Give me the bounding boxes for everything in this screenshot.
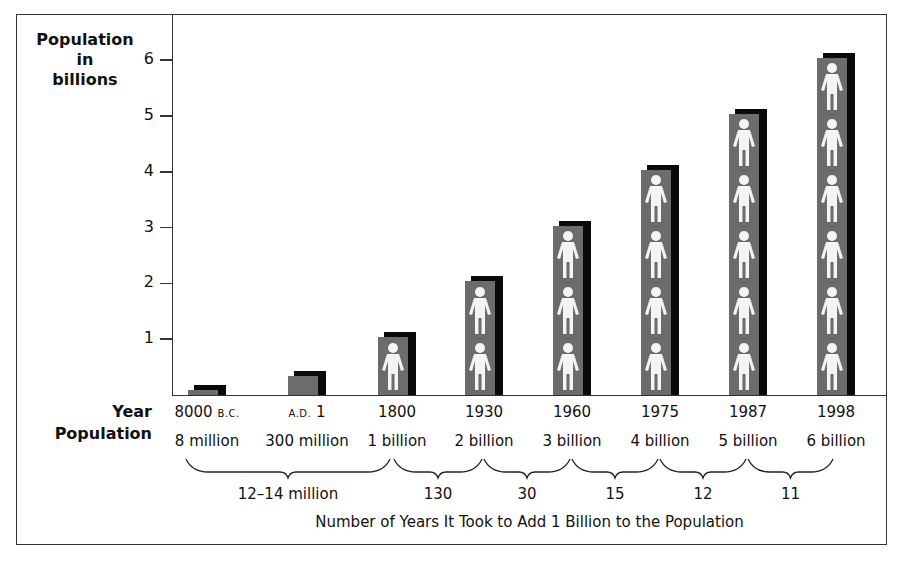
brace <box>748 459 833 478</box>
brace <box>484 459 570 478</box>
brace <box>394 459 482 478</box>
footer-caption: Number of Years It Took to Add 1 Billion… <box>172 512 887 532</box>
interval-braces <box>0 0 914 562</box>
brace <box>186 459 390 478</box>
interval-label: 11 <box>731 484 851 504</box>
brace <box>572 459 658 478</box>
brace <box>660 459 746 478</box>
interval-label: 12–14 million <box>228 484 348 504</box>
